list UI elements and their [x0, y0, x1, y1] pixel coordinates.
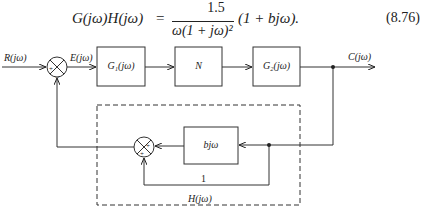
summer1-plus-sign: +	[49, 65, 53, 73]
summing-junction-2	[134, 137, 154, 157]
h-box-label: H(jω)	[188, 193, 212, 204]
n-label: N	[175, 60, 222, 71]
block-diagram: + − + +	[0, 0, 421, 207]
input-label: R(jω)	[4, 52, 27, 63]
pickoff-point-output	[331, 65, 335, 69]
pickoff-point-feedback	[267, 143, 271, 147]
unity-gain-label: 1	[201, 173, 206, 184]
feedback-return-line	[57, 78, 134, 147]
unity-path-line	[144, 145, 269, 185]
summer2-plus-right: +	[146, 142, 150, 150]
g1-label: G₁(jω)	[97, 60, 145, 71]
output-label: C(jω)	[348, 51, 371, 62]
h-feedback-dashed-box	[97, 105, 300, 205]
g2-label: G₂(jω)	[253, 60, 300, 71]
summer1-minus-sign: −	[55, 73, 60, 82]
bjw-label: bjω	[184, 139, 238, 150]
error-label: E(jω)	[70, 52, 93, 63]
summer2-plus-bottom: +	[140, 150, 144, 158]
feedback-line-outer	[270, 67, 333, 145]
